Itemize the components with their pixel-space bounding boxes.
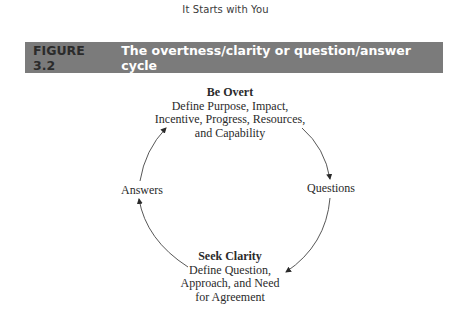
arrow-seek-clarity-to-answers xyxy=(139,199,188,267)
arrow-answers-to-be-overt xyxy=(140,128,166,181)
arrow-be-overt-to-questions xyxy=(302,128,330,179)
arrow-questions-to-seek-clarity xyxy=(286,198,330,272)
cycle-arrows xyxy=(0,0,451,322)
